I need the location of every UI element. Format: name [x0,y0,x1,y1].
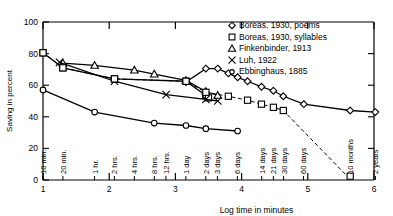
x-category-label-15: 10 months [346,139,355,174]
marker-circle-small [235,128,241,134]
marker-circle-small [40,87,46,93]
y-axis-title: Saving in percent [5,69,14,132]
x-category-label-6: 12 hrs. [162,151,171,174]
series-2 [59,59,222,98]
x-category-label-5: 8 hrs. [150,155,159,174]
marker-cross [229,57,236,64]
x-category-label-7: 1 day [182,155,191,174]
chart-svg: 020406080100Saving in percent123456Log t… [0,0,393,216]
x-category-label-8: 2 days [202,152,211,174]
legend: Boreas, 1930, poemsBoreas, 1930, syllabl… [228,20,326,76]
marker-diamond [214,65,221,72]
x-category-label-16: 2 years [371,149,380,174]
marker-circle-small [230,70,234,74]
y-tick-label-60: 60 [29,80,39,90]
marker-square [40,50,46,56]
marker-diamond [258,83,265,90]
legend-label-4: Ebbinghaus, 1885 [239,66,308,76]
marker-square [111,76,117,82]
chart-figure: 020406080100Saving in percent123456Log t… [0,0,393,216]
legend-label-3: Luh, 1922 [239,55,277,65]
marker-diamond [270,87,277,94]
y-tick-label-40: 40 [29,112,39,122]
x-category-label-3: 2 hrs. [110,155,119,174]
legend-label-1: Boreas, 1930, syllables [239,32,327,42]
x-category-label-2: 1 hr. [91,159,100,174]
marker-square [229,34,235,40]
marker-triangle [228,45,235,51]
marker-diamond [244,78,251,85]
series-line-3 [60,62,218,101]
x-category-label-9: 3 days [213,152,222,174]
marker-square [183,78,189,84]
marker-diamond [280,93,287,100]
x-category-label-13: 30 days [280,147,289,174]
marker-diamond [300,101,307,108]
x-tick-label-5: 5 [305,184,310,194]
series-3 [56,59,222,105]
marker-square [270,104,276,110]
marker-diamond [347,107,354,114]
marker-square [203,89,209,95]
x-tick-label-1: 1 [41,184,46,194]
marker-square [347,173,353,179]
marker-square [60,65,66,71]
x-category-label-0: 10 min. [39,149,48,174]
y-tick-label-100: 100 [24,17,38,27]
x-tick-label-6: 6 [372,184,377,194]
x-category-label-1: 20 min. [59,149,68,174]
x-category-label-14: 60 days [299,147,308,174]
marker-square [280,107,286,113]
x-tick-label-4: 4 [239,184,244,194]
marker-circle-small [203,126,209,132]
marker-diamond [372,109,379,116]
x-category-label-4: 4 hrs. [130,155,139,174]
marker-square [258,101,264,107]
marker-square [244,97,250,103]
x-tick-label-3: 3 [173,184,178,194]
y-tick-label-20: 20 [29,143,39,153]
y-tick-label-80: 80 [29,49,39,59]
legend-label-2: Finkenbinder, 1913 [239,43,312,53]
legend-label-0: Boreas, 1930, poems [239,20,320,30]
x-category-label-10: 6 days [233,152,242,174]
series-1 [40,50,212,101]
y-tick-label-0: 0 [33,175,38,185]
x-category-label-11: 14 days [258,147,267,174]
x-tick-label-2: 2 [107,184,112,194]
x-axis-title: Log time in minutes [220,205,294,215]
series-line-1 [43,53,209,98]
marker-circle-small [183,123,189,129]
series-4 [40,87,240,134]
x-category-label-12: 21 days [269,147,278,174]
marker-diamond [229,22,235,28]
marker-circle-small [151,120,157,126]
marker-square [225,93,231,99]
marker-circle-small [92,109,98,115]
